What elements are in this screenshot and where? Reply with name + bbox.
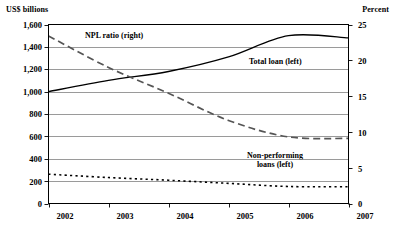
series-paths: [49, 35, 349, 187]
gridlines: [49, 48, 349, 182]
series-line-2: [49, 36, 349, 139]
axis-ticks: [45, 26, 353, 208]
chart-container: US$ billions Percent 1,600 1,400 1,200 1…: [0, 0, 394, 238]
plot-svg: [0, 0, 394, 238]
series-line-1: [49, 35, 349, 92]
series-line-3: [49, 174, 349, 187]
